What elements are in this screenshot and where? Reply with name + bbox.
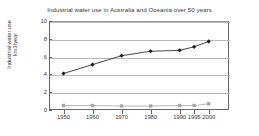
y-axis-tick-labels: 0246810 [31,21,47,110]
y-tick-label: 10 [33,18,47,24]
x-tick-label: 1950 [49,114,79,121]
data-point-secondary-lower-series [149,104,152,107]
series-line-secondary-lower-series [64,104,209,106]
y-tick-label: 4 [33,71,47,77]
chart-title: Industrial water use in Australia and Oc… [0,6,259,14]
series-line-industrial-water-use [64,41,209,73]
data-point-secondary-lower-series [62,104,65,107]
data-point-secondary-lower-series [91,104,94,107]
data-point-secondary-lower-series [207,102,210,105]
data-point-industrial-water-use [207,39,211,43]
x-axis-tick-labels: 1950196019701980199019952000 [49,112,229,122]
data-point-secondary-lower-series [120,104,123,107]
data-point-industrial-water-use [61,71,65,75]
chart-container: Industrial water use in Australia and Oc… [0,0,259,136]
data-point-industrial-water-use [149,49,153,53]
x-tick-label: 1960 [78,114,108,121]
y-tick-label: 2 [33,89,47,95]
y-tick-label: 0 [33,107,47,113]
y-tick-label: 6 [33,54,47,60]
series-layer [49,21,229,110]
data-point-industrial-water-use [178,48,182,52]
data-point-secondary-lower-series [178,104,181,107]
data-point-secondary-lower-series [192,104,195,107]
y-tick-label: 8 [33,36,47,42]
y-axis-title-line-2: km3/year [12,8,18,80]
data-point-industrial-water-use [90,63,94,67]
x-tick-label: 1980 [136,114,166,121]
x-tick-label: 1970 [107,114,137,121]
plot-wrapper [49,21,229,110]
data-point-industrial-water-use [119,54,123,58]
x-tick-label: 2000 [194,114,224,121]
data-point-industrial-water-use [192,45,196,49]
y-tick-mark [49,110,52,111]
y-axis-title: Industrial water use km3/year [6,8,19,80]
